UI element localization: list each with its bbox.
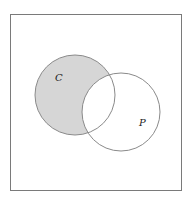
set-p-label: P bbox=[138, 117, 146, 128]
set-c-label: C bbox=[55, 72, 63, 83]
venn-diagram: C P bbox=[0, 0, 189, 200]
